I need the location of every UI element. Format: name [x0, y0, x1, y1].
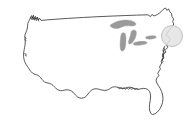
lake-michigan: [120, 33, 126, 51]
us-map-svg: [0, 0, 193, 131]
us-map-figure: Map of the contiguous United States Outl…: [0, 0, 193, 131]
northeast-highlight-marker[interactable]: [162, 26, 183, 47]
us-national-outline: [24, 8, 174, 115]
